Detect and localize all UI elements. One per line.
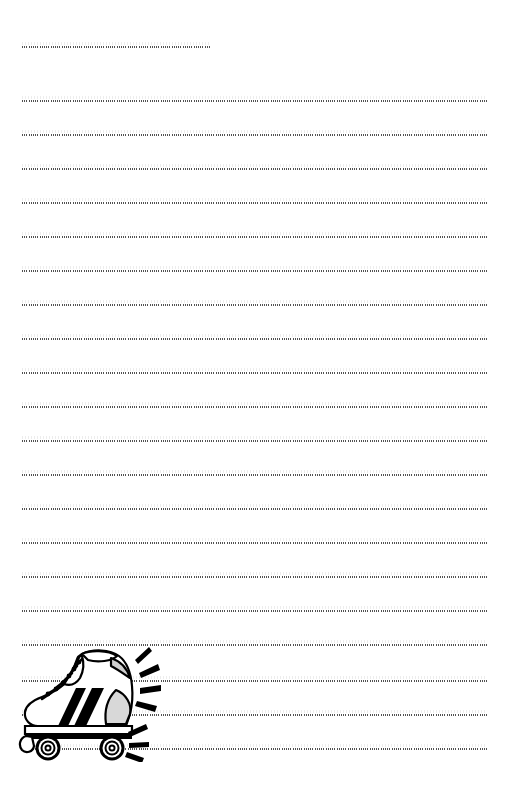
writing-rule-line <box>22 610 487 612</box>
writing-rule-line <box>22 338 487 340</box>
writing-rule-line <box>22 406 487 408</box>
writing-rule-ghost <box>22 42 210 45</box>
writing-rule-ghost <box>22 640 487 643</box>
writing-rule-ghost <box>22 470 487 473</box>
roller-skate-svg <box>18 644 168 762</box>
writing-rule-line <box>22 440 487 442</box>
writing-rule-ghost <box>22 572 487 575</box>
writing-rule-line <box>22 372 487 374</box>
writing-rule-ghost <box>22 164 487 167</box>
writing-rule-line <box>22 236 487 238</box>
writing-rule-line <box>22 474 487 476</box>
writing-rule-line <box>22 46 210 48</box>
writing-rule-ghost <box>22 232 487 235</box>
roller-skate-illustration <box>18 644 168 762</box>
toe-stop <box>20 736 34 752</box>
writing-rule-ghost <box>22 402 487 405</box>
writing-rule-line <box>22 270 487 272</box>
writing-rule-ghost <box>22 266 487 269</box>
writing-rule-line <box>22 304 487 306</box>
writing-rule-ghost <box>22 504 487 507</box>
writing-rule-line <box>22 576 487 578</box>
writing-rule-ghost <box>22 130 487 133</box>
writing-rule-line <box>22 542 487 544</box>
front-wheel <box>36 736 61 761</box>
writing-rule-ghost <box>22 96 487 99</box>
rear-wheel <box>100 736 125 761</box>
writing-rule-ghost <box>22 606 487 609</box>
writing-rule-ghost <box>22 334 487 337</box>
writing-rule-line <box>22 202 487 204</box>
writing-rule-ghost <box>22 368 487 371</box>
writing-rule-ghost <box>22 198 487 201</box>
writing-rule-line <box>22 508 487 510</box>
writing-rule-ghost <box>22 300 487 303</box>
writing-rule-line <box>22 134 487 136</box>
motion-lines-top <box>135 647 161 712</box>
writing-rule-ghost <box>22 538 487 541</box>
writing-rule-line <box>22 168 487 170</box>
worksheet-page <box>0 0 510 786</box>
writing-rule-ghost <box>22 436 487 439</box>
writing-rule-line <box>22 100 487 102</box>
